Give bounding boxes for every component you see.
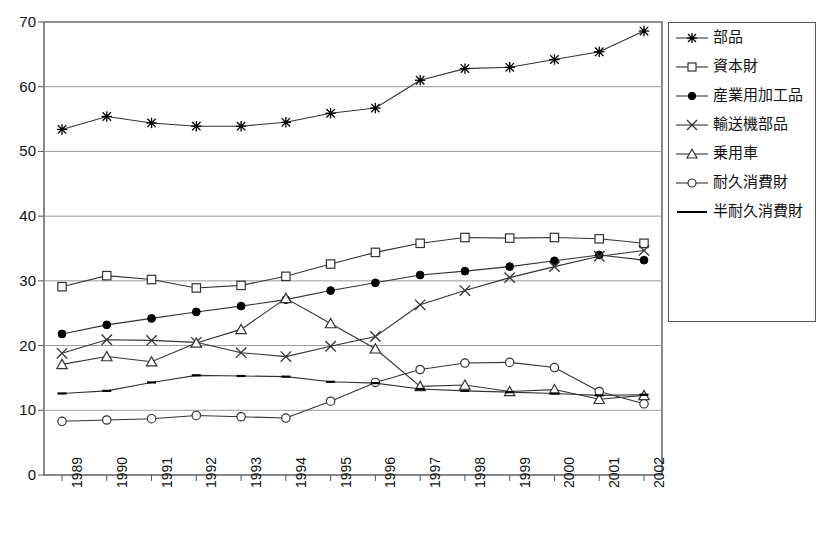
y-tick-label: 40 [8,207,36,224]
marker-filled-circle [506,263,514,271]
marker-square [550,233,558,241]
marker-open-circle [550,363,558,371]
x-tick-label: 1991 [159,457,175,488]
x-tick-label: 1995 [338,457,354,488]
marker-filled-circle [192,308,200,316]
marker-open-circle [416,365,424,373]
legend-item-2[interactable]: 産業用加工品 [675,87,811,105]
marker-square [58,282,66,290]
marker-open-circle [688,179,696,187]
legend-label: 乗用車 [713,145,758,162]
marker-star [508,66,511,69]
marker-square [640,239,648,247]
chart-page: 010203040506070 198919901991199219931994… [0,0,819,544]
legend-label: 資本財 [713,58,758,75]
marker-filled-circle [58,330,66,338]
marker-open-circle [461,359,469,367]
plot-frame [44,22,662,475]
y-tick-label: 0 [8,466,36,483]
legend-item-0[interactable]: 部品 [675,29,811,47]
marker-star [598,50,601,53]
legend-label: 部品 [713,29,743,46]
marker-open-circle [58,417,66,425]
marker-filled-circle [327,287,335,295]
marker-square [416,239,424,247]
marker-star [690,36,693,39]
legend-item-6[interactable]: 半耐久消費財 [675,203,811,221]
marker-square [326,260,334,268]
marker-star [150,121,153,124]
marker-square [505,234,513,242]
x-tick-label: 1989 [69,457,85,488]
marker-star [105,115,108,118]
legend-marker-square-icon [675,58,709,76]
marker-filled-circle [688,92,695,99]
marker-star [419,79,422,82]
legend-label: 輸送機部品 [713,116,788,133]
y-tick-label: 10 [8,401,36,418]
marker-square [237,281,245,289]
y-tick-label: 20 [8,337,36,354]
legend-label: 産業用加工品 [713,87,803,104]
marker-open-circle [640,400,648,408]
y-tick-label: 70 [8,13,36,30]
x-tick-label: 1990 [114,457,130,488]
marker-star [553,58,556,61]
marker-filled-circle [103,321,111,329]
marker-open-circle [282,414,290,422]
marker-filled-circle [371,279,379,287]
marker-square [147,275,155,283]
legend-label: 半耐久消費財 [713,203,803,220]
marker-star [329,112,332,115]
marker-open-circle [192,411,200,419]
marker-filled-circle [595,251,603,259]
x-tick-label: 2002 [651,457,667,488]
marker-square [371,248,379,256]
marker-square [192,284,200,292]
marker-square [282,272,290,280]
x-tick-label: 1996 [382,457,398,488]
legend-item-5[interactable]: 耐久消費財 [675,174,811,192]
marker-open-circle [505,358,513,366]
marker-filled-circle [237,302,245,310]
marker-filled-circle [148,314,156,322]
marker-filled-circle [640,256,648,264]
x-tick-label: 1993 [248,457,264,488]
marker-square [461,233,469,241]
marker-open-circle [326,397,334,405]
x-tick-label: 1999 [517,457,533,488]
marker-open-circle [237,413,245,421]
x-tick-label: 1992 [203,457,219,488]
marker-star [284,121,287,124]
legend-marker-star-icon [675,29,709,47]
marker-star [239,125,242,128]
legend-marker-triangle-icon [675,145,709,163]
legend-marker-open-circle-icon [675,174,709,192]
marker-star [195,125,198,128]
marker-open-circle [147,414,155,422]
marker-square [595,235,603,243]
x-tick-label: 1994 [293,457,309,488]
line-chart: 010203040506070 198919901991199219931994… [0,0,670,544]
legend-item-3[interactable]: 輸送機部品 [675,116,811,134]
marker-square [103,271,111,279]
legend-item-1[interactable]: 資本財 [675,58,811,76]
legend-item-4[interactable]: 乗用車 [675,145,811,163]
x-tick-label: 1997 [427,457,443,488]
marker-filled-circle [461,267,469,275]
legend-marker-filled-circle-icon [675,87,709,105]
legend-marker-dash-icon [675,203,709,221]
legend-label: 耐久消費財 [713,174,788,191]
marker-star [463,67,466,70]
marker-square [688,63,696,71]
x-tick-label: 2001 [606,457,622,488]
marker-star [374,106,377,109]
y-tick-label: 50 [8,142,36,159]
chart-legend: 部品資本財産業用加工品輸送機部品乗用車耐久消費財半耐久消費財 [668,22,816,322]
y-tick-label: 30 [8,272,36,289]
x-tick-label: 2000 [561,457,577,488]
marker-star [60,128,63,131]
x-tick-label: 1998 [472,457,488,488]
marker-star [642,29,645,32]
legend-marker-cross-icon [675,116,709,134]
